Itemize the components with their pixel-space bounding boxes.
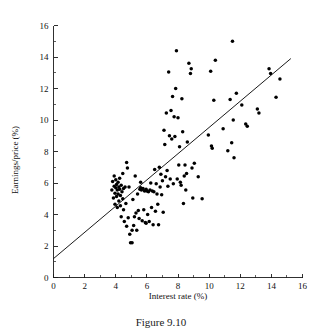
figure-container: 0246810121416 0246810121416 Interest rat… (0, 0, 322, 330)
data-point (113, 191, 117, 195)
data-point (161, 179, 165, 183)
data-point (187, 62, 191, 66)
data-point (121, 172, 125, 176)
data-point (123, 185, 127, 189)
data-point (118, 177, 122, 181)
x-tick-label: 14 (267, 281, 277, 291)
data-point (130, 241, 134, 245)
data-point (165, 169, 169, 173)
x-tick-label: 8 (176, 281, 181, 291)
data-point (163, 143, 167, 147)
data-point (150, 206, 154, 210)
data-point (171, 95, 175, 99)
x-tick-label: 2 (82, 281, 87, 291)
data-point (235, 91, 239, 95)
data-point (151, 223, 155, 227)
data-point (133, 215, 137, 219)
data-point (177, 163, 181, 167)
data-point (174, 87, 178, 91)
x-tick-label: 4 (114, 281, 119, 291)
regression-line (54, 59, 291, 259)
data-point (133, 174, 137, 178)
y-tick-label: 4 (44, 210, 49, 220)
data-point (136, 192, 140, 196)
data-point (196, 175, 200, 179)
data-point (130, 229, 134, 233)
data-point (190, 166, 194, 170)
x-tick-label: 10 (205, 281, 215, 291)
tick-marks-group (54, 26, 303, 278)
fit-line-segment (54, 59, 291, 259)
data-point (126, 166, 130, 170)
data-point (257, 111, 261, 115)
data-point (160, 193, 164, 197)
data-point (146, 213, 150, 217)
data-point (110, 188, 114, 192)
data-point (161, 210, 165, 214)
data-point (124, 202, 128, 206)
x-tick-label: 12 (236, 281, 245, 291)
data-point (157, 223, 161, 227)
data-point (154, 182, 158, 186)
y-axis-tick-labels: 0246810121416 (40, 21, 50, 283)
data-point (119, 215, 123, 219)
data-point (116, 180, 120, 184)
data-point (207, 133, 211, 137)
axes-group (54, 26, 303, 278)
data-point (228, 98, 232, 102)
data-point (127, 185, 131, 189)
data-point (212, 99, 216, 103)
x-axis-title: Interest rate (%) (149, 291, 207, 301)
data-point (173, 135, 177, 139)
y-tick-label: 2 (44, 241, 49, 251)
data-point (232, 156, 236, 160)
data-point (182, 202, 186, 206)
data-point (131, 198, 135, 202)
data-point (278, 77, 282, 81)
data-point (172, 182, 176, 186)
y-tick-label: 16 (40, 21, 50, 31)
figure-caption: Figure 9.10 (0, 316, 322, 328)
data-point (185, 172, 189, 176)
data-point (210, 147, 214, 151)
figure-caption-clip: Figure 9.10 (0, 316, 322, 330)
data-point (126, 216, 130, 220)
data-point (231, 40, 235, 44)
data-point (112, 196, 116, 200)
data-point (119, 204, 123, 208)
data-point (175, 177, 179, 181)
data-point (135, 229, 139, 233)
data-point (221, 127, 225, 131)
data-point (181, 130, 185, 134)
y-axis-title: Earnings/price (%) (10, 126, 20, 194)
scatter-chart: 0246810121416 0246810121416 Interest rat… (0, 0, 322, 330)
x-tick-label: 6 (145, 281, 150, 291)
data-point (175, 49, 179, 53)
axis-lines (54, 26, 303, 278)
data-point (132, 224, 136, 228)
data-point (122, 208, 126, 212)
data-point (162, 128, 166, 132)
data-point (178, 145, 182, 149)
data-point (164, 175, 168, 179)
data-point (119, 184, 123, 188)
data-point (153, 168, 157, 172)
data-point (158, 185, 162, 189)
data-point (152, 190, 156, 194)
data-point (167, 70, 171, 74)
data-point (142, 208, 146, 212)
data-point (179, 180, 183, 184)
data-point (139, 180, 143, 184)
data-point (123, 220, 127, 224)
data-point (226, 149, 230, 153)
data-point (166, 184, 170, 188)
data-point (169, 109, 173, 113)
data-point (159, 173, 163, 177)
y-tick-label: 6 (44, 178, 49, 188)
data-point (186, 140, 190, 144)
data-point (111, 180, 115, 184)
x-axis-tick-labels: 0246810121416 (51, 281, 307, 291)
data-point (170, 137, 174, 141)
data-point (200, 197, 204, 201)
data-point (180, 97, 184, 101)
